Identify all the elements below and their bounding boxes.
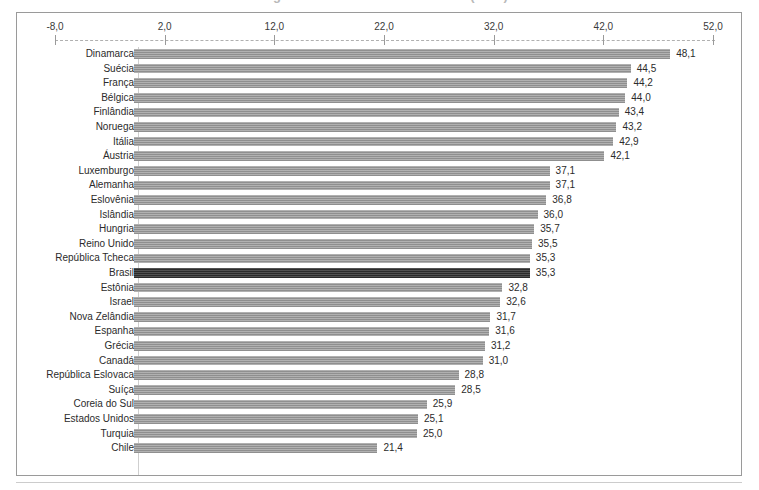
bar[interactable] [134,341,485,351]
bar[interactable] [134,443,377,453]
bar[interactable] [134,356,483,366]
category-label: França [103,76,134,91]
bar-row: Reino Unido35,5 [17,237,743,252]
bar-value-label: 28,8 [465,368,484,383]
category-label: Dinamarca [86,47,134,62]
category-label: Suécia [103,62,134,77]
axis-line [55,40,715,41]
category-label: Suíça [108,383,134,398]
axis-tick-label: 2,0 [158,21,172,32]
axis-tick-label: 12,0 [265,21,284,32]
bar-row: Itália42,9 [17,135,743,150]
bar-value-label: 35,3 [536,266,555,281]
category-label: Eslovênia [91,193,134,208]
category-label: Coreia do Sul [73,397,134,412]
bar[interactable] [134,137,613,147]
bar-row: Chile21,4 [17,441,743,456]
category-label: Hungria [99,222,134,237]
bar-highlight[interactable] [134,268,530,278]
bar-value-label: 35,3 [536,251,555,266]
bar-value-label: 35,7 [540,222,559,237]
category-label: Estônia [101,281,134,296]
bar-row: Nova Zelândia31,7 [17,310,743,325]
bottom-divider [16,482,742,483]
plot-frame: -8,02,012,022,032,042,052,0 Dinamarca48,… [16,12,742,476]
bar[interactable] [134,78,627,88]
chart-title-clipped: Carga tributária bruta em % do PIB (2015… [0,0,759,9]
bar-row: Grécia31,2 [17,339,743,354]
bar[interactable] [134,195,546,205]
category-label: Noruega [96,120,134,135]
axis-tick [603,35,604,45]
bar[interactable] [134,312,490,322]
bar-value-label: 37,1 [556,178,575,193]
category-label: Canadá [99,354,134,369]
bar[interactable] [134,64,631,74]
bar-value-label: 36,8 [552,193,571,208]
bar[interactable] [134,122,616,132]
bar[interactable] [134,93,625,103]
category-label: Alemanha [89,178,134,193]
bar[interactable] [134,210,538,220]
category-label: Israel [110,295,134,310]
chart-root: Carga tributária bruta em % do PIB (2015… [0,0,759,490]
bar-value-label: 31,2 [491,339,510,354]
axis-tick [274,35,275,45]
category-label: República Tcheca [55,251,134,266]
category-label: Itália [113,135,134,150]
bar[interactable] [134,370,459,380]
bar-value-label: 25,9 [433,397,452,412]
bar-value-label: 31,7 [496,310,515,325]
category-label: Nova Zelândia [70,310,134,325]
bar[interactable] [134,181,550,191]
bar-value-label: 32,6 [506,295,525,310]
bar-row: Israel32,6 [17,295,743,310]
bar-row: Brasil35,3 [17,266,743,281]
bar-value-label: 25,1 [424,412,443,427]
bar-value-label: 48,1 [676,47,695,62]
category-label: Áustria [103,149,134,164]
bar[interactable] [134,400,427,410]
bar[interactable] [134,254,530,264]
bar-rows: Dinamarca48,1Suécia44,5França44,2Bélgica… [17,47,743,475]
bar[interactable] [134,166,550,176]
bar-value-label: 37,1 [556,164,575,179]
bar-row: Bélgica44,0 [17,91,743,106]
bar[interactable] [134,385,455,395]
bar-value-label: 25,0 [423,427,442,442]
bar[interactable] [134,224,534,234]
axis-tick [713,35,714,45]
bar-row: Estônia32,8 [17,281,743,296]
bar[interactable] [134,283,502,293]
category-label: Estados Unidos [64,412,134,427]
bar-value-label: 44,0 [631,91,650,106]
bar-row: Espanha31,6 [17,324,743,339]
axis-tick-label: 32,0 [484,21,503,32]
bar[interactable] [134,151,604,161]
bar[interactable] [134,429,417,439]
bar-row: Luxemburgo37,1 [17,164,743,179]
bar-row: República Tcheca35,3 [17,251,743,266]
axis-tick [55,35,56,45]
bar-value-label: 31,0 [489,354,508,369]
bar[interactable] [134,239,532,249]
bar-row: Turquia25,0 [17,427,743,442]
category-label: Turquia [100,427,134,442]
bar-value-label: 36,0 [544,208,563,223]
bar-row: Hungria35,7 [17,222,743,237]
x-axis: -8,02,012,022,032,042,052,0 [17,13,743,47]
category-label: Chile [111,441,134,456]
bar-row: Dinamarca48,1 [17,47,743,62]
bar[interactable] [134,297,500,307]
bar-value-label: 21,4 [383,441,402,456]
bar-value-label: 44,5 [637,62,656,77]
bar[interactable] [134,327,489,337]
bar[interactable] [134,414,418,424]
category-label: Reino Unido [79,237,134,252]
bar[interactable] [134,108,619,118]
bar[interactable] [134,49,670,59]
bar-value-label: 42,9 [619,135,638,150]
category-label: Espanha [95,324,134,339]
bar-row: Noruega43,2 [17,120,743,135]
category-label: Islândia [100,208,134,223]
